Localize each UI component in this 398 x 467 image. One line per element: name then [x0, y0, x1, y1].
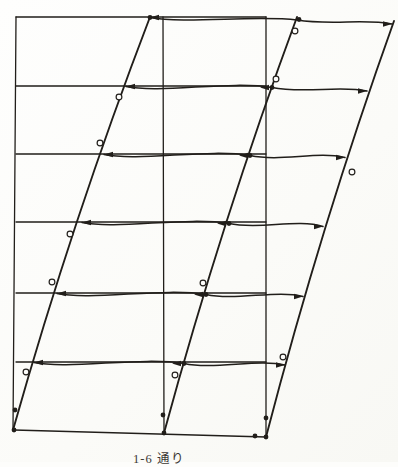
deformed-beam	[150, 18, 392, 25]
joint-dot	[12, 428, 17, 433]
hinge-circle	[67, 231, 73, 237]
arrowhead-icon	[294, 294, 303, 299]
hinge-circle	[23, 369, 29, 375]
joint-dot	[13, 408, 18, 413]
arrowhead-icon	[126, 84, 135, 89]
deformed-columns	[13, 17, 394, 437]
hinge-circle	[200, 280, 206, 286]
hinge-circle	[97, 140, 103, 146]
joint-dot	[270, 85, 275, 90]
figure-caption: 1-6 通り	[133, 448, 185, 467]
node-dots	[12, 15, 302, 439]
arrowhead-icon	[57, 291, 66, 296]
joint-dot	[297, 17, 302, 22]
joint-dot	[162, 431, 167, 436]
joint-dot	[182, 361, 187, 366]
arrowhead-icon	[383, 21, 392, 26]
hinge-circles	[23, 28, 355, 378]
joint-dot	[148, 15, 153, 20]
hinge-circle	[273, 76, 279, 82]
hinge-circle	[292, 28, 298, 34]
arrowhead-icon	[358, 88, 367, 93]
joint-dot	[253, 434, 258, 439]
undeformed-column	[13, 17, 16, 430]
hinge-circle	[116, 94, 122, 100]
joint-dot	[264, 435, 269, 440]
undeformed-column	[163, 17, 164, 433]
hinge-circle	[49, 279, 55, 285]
base-line	[14, 430, 266, 437]
arrowhead-icon	[104, 152, 113, 157]
arrowhead-icon	[336, 155, 345, 160]
arrowhead-icon	[82, 220, 91, 225]
hinge-circle	[172, 372, 178, 378]
joint-dot	[161, 413, 166, 418]
hinge-circle	[280, 354, 286, 360]
joint-dot	[248, 153, 253, 158]
joint-dot	[227, 221, 232, 226]
arrowhead-icon	[34, 360, 43, 365]
joint-dot	[204, 292, 209, 297]
joint-dot	[264, 416, 269, 421]
arrowhead-icon	[276, 362, 285, 367]
hinge-circle	[349, 169, 355, 175]
undeformed-frame-grid	[13, 17, 266, 437]
deformed-column	[266, 21, 394, 437]
